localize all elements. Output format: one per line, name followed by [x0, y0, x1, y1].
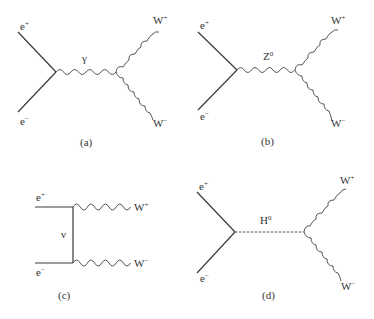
- w-plus-line: [73, 204, 131, 210]
- electron-line: [18, 72, 56, 112]
- w-minus-line: [295, 70, 332, 121]
- label-w-minus: W−: [134, 257, 148, 269]
- label-e-minus: e−: [200, 272, 209, 284]
- label-higgs: H0: [260, 214, 272, 226]
- caption-a: (a): [80, 136, 93, 149]
- w-minus-line: [73, 260, 131, 266]
- label-e-minus: e−: [20, 115, 29, 127]
- label-e-minus: e−: [36, 266, 45, 278]
- w-plus-line: [295, 30, 338, 70]
- photon-propagator: [56, 70, 116, 75]
- positron-line: [18, 32, 56, 72]
- caption-d: (d): [262, 289, 275, 302]
- positron-line: [198, 32, 237, 70]
- caption-b: (b): [261, 135, 274, 148]
- label-e-plus: e+: [20, 20, 29, 32]
- label-w-plus: W+: [340, 174, 354, 186]
- label-w-minus: W−: [153, 117, 167, 129]
- label-e-plus: e+: [199, 180, 208, 192]
- z-boson-propagator: [237, 68, 295, 73]
- label-z-boson: Z0: [263, 50, 274, 62]
- label-w-plus: W+: [153, 14, 167, 26]
- panel-b: e+ e− Z0 W+ W− (b): [198, 14, 345, 148]
- w-plus-line: [116, 32, 159, 72]
- panel-d: e+ e− H0 W+ W− (d): [197, 174, 355, 302]
- positron-line: [197, 192, 235, 232]
- label-neutrino: ν: [61, 228, 66, 240]
- electron-line: [197, 232, 235, 273]
- label-w-minus: W−: [341, 280, 355, 292]
- w-plus-line: [304, 189, 346, 232]
- panel-c: e+ e− ν W+ W− (c): [35, 191, 148, 302]
- w-minus-line: [304, 232, 341, 281]
- label-e-plus: e+: [36, 191, 45, 203]
- label-w-minus: W−: [331, 117, 345, 129]
- w-minus-line: [116, 72, 153, 120]
- label-w-plus: W+: [134, 201, 148, 213]
- label-photon: γ: [81, 52, 87, 64]
- feynman-diagrams-figure: e+ e− γ W+ W− (a) e+ e− Z0 W+ W− (b) e+ …: [0, 0, 374, 319]
- caption-c: (c): [58, 289, 71, 302]
- label-e-minus: e−: [200, 110, 209, 122]
- label-w-plus: W+: [331, 14, 345, 26]
- panel-a: e+ e− γ W+ W− (a): [18, 14, 167, 149]
- label-e-plus: e+: [200, 19, 209, 31]
- electron-line: [198, 70, 237, 110]
